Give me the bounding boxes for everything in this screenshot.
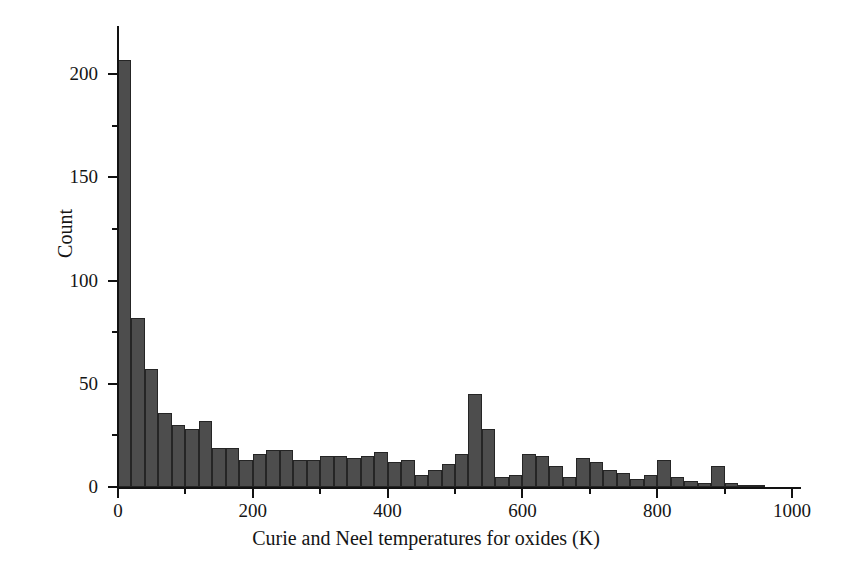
x-tick-label: 800: [617, 501, 697, 521]
histogram-bar: [711, 466, 724, 487]
histogram-bar: [630, 479, 643, 487]
histogram-bar: [158, 413, 171, 487]
histogram-bar: [239, 460, 252, 487]
histogram-bar: [549, 466, 562, 487]
histogram-bar: [131, 318, 144, 487]
x-tick-label: 600: [482, 501, 562, 521]
x-axis-title: Curie and Neel temperatures for oxides (…: [0, 527, 852, 550]
x-tick-label: 1000: [752, 501, 832, 521]
x-tick-major: [521, 489, 523, 498]
y-tick-label: 50: [20, 374, 98, 393]
x-tick-minor: [724, 489, 726, 494]
histogram-bar: [671, 477, 684, 487]
x-tick-major: [656, 489, 658, 498]
histogram-bar: [495, 477, 508, 487]
histogram-bar: [536, 456, 549, 487]
histogram-bar: [347, 458, 360, 487]
histogram-bar: [320, 456, 333, 487]
histogram-bar: [428, 470, 441, 487]
histogram-bar: [576, 458, 589, 487]
histogram-bar: [468, 394, 481, 487]
histogram-bar: [118, 60, 131, 487]
y-tick-minor: [112, 228, 118, 230]
histogram-bar: [253, 454, 266, 487]
y-tick-label: 200: [20, 64, 98, 83]
x-tick-major: [252, 489, 254, 498]
x-tick-major: [387, 489, 389, 498]
y-tick-minor: [112, 434, 118, 436]
histogram-bar: [522, 454, 535, 487]
histogram-bar: [145, 369, 158, 487]
x-tick-label: 0: [78, 501, 158, 521]
histogram-bar: [657, 460, 670, 487]
histogram-bar: [374, 452, 387, 487]
y-tick-major: [108, 486, 118, 488]
y-tick-major: [108, 383, 118, 385]
histogram-bar: [266, 450, 279, 487]
histogram-bar: [172, 425, 185, 487]
histogram-bar: [388, 462, 401, 487]
y-axis-line: [117, 26, 119, 489]
histogram-bar: [307, 460, 320, 487]
histogram-bar: [603, 470, 616, 487]
y-tick-minor: [112, 331, 118, 333]
x-tick-major: [791, 489, 793, 498]
y-tick-label: 0: [20, 477, 98, 496]
y-tick-major: [108, 73, 118, 75]
histogram-bar: [212, 448, 225, 487]
histogram-bar: [455, 454, 468, 487]
plot-area: [118, 30, 792, 487]
histogram-bar: [482, 429, 495, 487]
x-tick-major: [117, 489, 119, 498]
histogram-bar: [199, 421, 212, 487]
histogram-bar: [415, 475, 428, 487]
y-tick-major: [108, 280, 118, 282]
histogram-bar: [280, 450, 293, 487]
histogram-bar: [401, 460, 414, 487]
histogram-bar: [590, 462, 603, 487]
histogram-bar: [442, 464, 455, 487]
histogram-bar: [644, 475, 657, 487]
y-axis-title: Count: [54, 164, 77, 304]
histogram-bar: [293, 460, 306, 487]
x-tick-label: 200: [213, 501, 293, 521]
x-tick-minor: [184, 489, 186, 494]
histogram-bar: [563, 477, 576, 487]
x-tick-minor: [589, 489, 591, 494]
x-axis-line: [117, 487, 801, 489]
histogram-bar: [617, 473, 630, 487]
histogram-bar: [509, 475, 522, 487]
bars-layer: [118, 30, 792, 487]
histogram-bar: [226, 448, 239, 487]
y-tick-minor: [112, 125, 118, 127]
histogram-figure: 050100150200 02004006008001000 Count Cur…: [0, 0, 852, 577]
histogram-bar: [185, 429, 198, 487]
x-tick-label: 400: [348, 501, 428, 521]
x-tick-minor: [319, 489, 321, 494]
histogram-bar: [334, 456, 347, 487]
x-tick-minor: [454, 489, 456, 494]
y-tick-major: [108, 176, 118, 178]
histogram-bar: [361, 456, 374, 487]
